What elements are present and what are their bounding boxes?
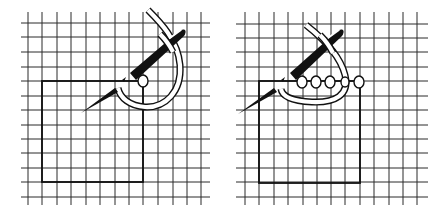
stitch-illustration [0, 0, 444, 216]
stitch-bead-row [297, 76, 364, 88]
panel-step-1 [21, 12, 210, 205]
stitch-bead-icon [311, 76, 321, 88]
stitch-bead-icon [297, 76, 307, 88]
stitch-bead-icon [354, 76, 364, 88]
stitch-bead-icon [325, 76, 335, 88]
stitch-bead-icon [341, 77, 349, 87]
stitch-bead-icon [138, 75, 148, 87]
stitch-diagram [0, 0, 444, 216]
